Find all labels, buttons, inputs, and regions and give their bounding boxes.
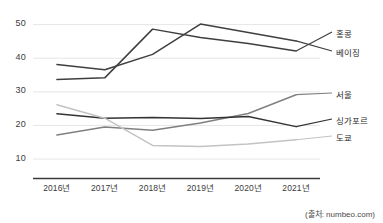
series-leader-lines [296, 32, 332, 140]
x-tick-2018년: 2018년 [130, 181, 176, 193]
y-tick-20: 20 [4, 119, 26, 129]
line-chart: 5040302010 2016년2017년2018년2019년2020년2021… [0, 0, 383, 223]
series-label-0: 홍콩 [336, 27, 352, 39]
series-label-4: 도쿄 [336, 131, 352, 143]
x-tick-2020년: 2020년 [225, 181, 271, 193]
series-line-1 [57, 24, 296, 70]
series-leader-1 [296, 41, 332, 51]
series-line-3 [57, 114, 296, 127]
source-note: (출처: numbeo.com) [305, 208, 375, 219]
x-tick-2016년: 2016년 [34, 181, 80, 193]
series-label-1: 베이징 [336, 46, 360, 58]
series-label-3: 싱가포르 [336, 114, 368, 126]
series-label-2: 서울 [336, 88, 352, 100]
y-tick-50: 50 [4, 18, 26, 28]
y-tick-10: 10 [4, 153, 26, 163]
x-tick-2017년: 2017년 [82, 181, 128, 193]
series-line-0 [57, 29, 296, 79]
x-tick-2019년: 2019년 [177, 181, 223, 193]
x-tick-2021년: 2021년 [273, 181, 319, 193]
series-leader-4 [296, 136, 332, 140]
series-leader-2 [296, 93, 332, 95]
series-lines [57, 24, 296, 146]
y-tick-40: 40 [4, 52, 26, 62]
y-tick-30: 30 [4, 85, 26, 95]
series-leader-0 [296, 32, 332, 51]
gridlines [33, 25, 320, 159]
